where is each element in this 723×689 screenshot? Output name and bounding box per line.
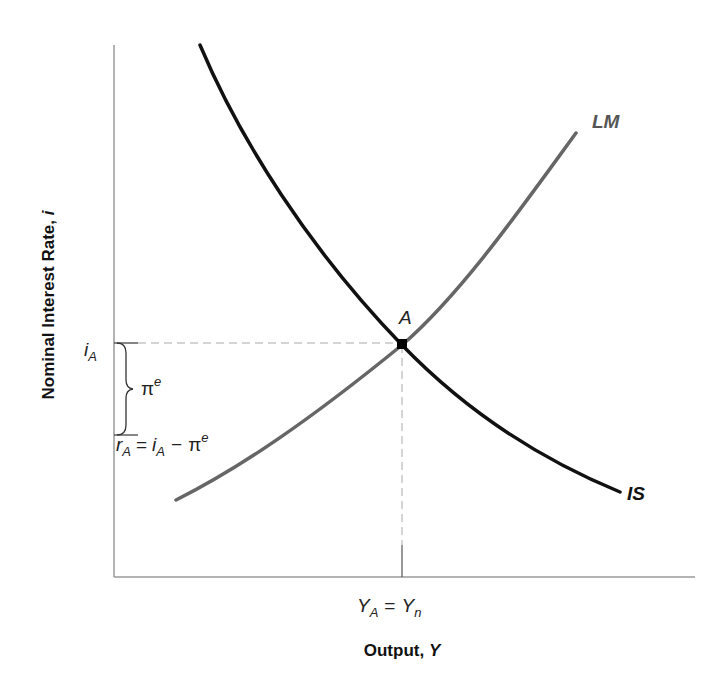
is-label: IS bbox=[627, 483, 645, 504]
is-lm-chart: A LM IS iA πe rA=iA−πe YA=Yn Output, Y N… bbox=[0, 0, 723, 689]
is-curve bbox=[200, 45, 620, 492]
pi-e-label: πe bbox=[141, 374, 161, 399]
point-a-label: A bbox=[398, 307, 412, 328]
equilibrium-point bbox=[397, 339, 407, 349]
lm-label: LM bbox=[592, 111, 621, 132]
i-a-label: iA bbox=[84, 339, 97, 364]
x-axis-title: Output, Y bbox=[364, 641, 442, 660]
output-equilibrium-label: YA=Yn bbox=[357, 595, 421, 620]
pi-e-brace bbox=[117, 343, 133, 435]
y-axis-title: Nominal Interest Rate, i bbox=[39, 209, 58, 399]
